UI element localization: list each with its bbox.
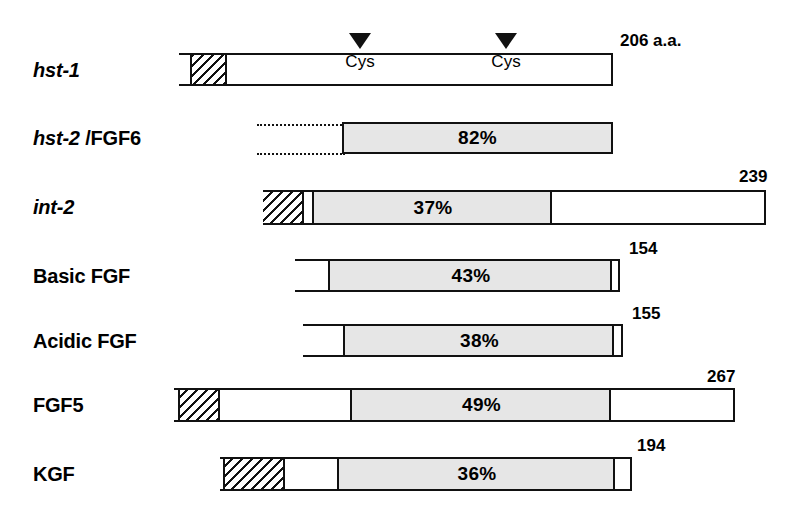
homology-percent-fgf5: 49% bbox=[352, 390, 611, 420]
row-label-text: hst-2 bbox=[33, 127, 80, 149]
protein-bar-fgf5: 49% bbox=[174, 388, 735, 422]
protein-bar-basic-fgf: 43% bbox=[295, 259, 620, 292]
row-label-int-2: int-2 bbox=[33, 197, 74, 217]
row-label-text: FGF5 bbox=[33, 394, 83, 416]
size-label-kgf: 194 bbox=[637, 437, 665, 454]
protein-bar-acidic-fgf: 38% bbox=[303, 324, 623, 357]
dotted-extension-top bbox=[257, 124, 345, 126]
dotted-extension-bottom bbox=[257, 153, 345, 155]
segment-hatched bbox=[225, 459, 285, 489]
protein-bar-hst-2: 82% bbox=[342, 122, 613, 154]
triangle-down-icon bbox=[349, 33, 371, 49]
segment-hatched bbox=[192, 55, 227, 84]
homology-percent-int-2: 37% bbox=[314, 192, 552, 223]
segment-white-n-term bbox=[303, 326, 345, 355]
row-label-text: hst-1 bbox=[33, 59, 80, 81]
segment-white bbox=[304, 192, 314, 223]
size-label-acidic-fgf: 155 bbox=[632, 305, 660, 322]
row-label-kgf: KGF bbox=[33, 464, 75, 484]
segment-hatched bbox=[263, 192, 304, 223]
row-label-hst-2: hst-2 /FGF6 bbox=[33, 128, 141, 148]
row-label-text: int-2 bbox=[33, 196, 74, 218]
size-label-hst-1: 206 a.a. bbox=[620, 32, 681, 49]
homology-percent-hst-2: 82% bbox=[344, 124, 611, 152]
protein-bar-int-2: 37% bbox=[263, 190, 766, 225]
row-label-text: Acidic FGF bbox=[33, 330, 137, 352]
row-label-fgf5: FGF5 bbox=[33, 395, 83, 415]
row-label-acidic-fgf: Acidic FGF bbox=[33, 331, 137, 351]
segment-white-n-term bbox=[295, 261, 330, 290]
segment-hatched bbox=[180, 390, 220, 420]
protein-bar-hst-1 bbox=[179, 53, 613, 86]
row-label-basic-fgf: Basic FGF bbox=[33, 266, 130, 286]
size-label-fgf5: 267 bbox=[707, 368, 735, 385]
triangle-down-icon bbox=[495, 33, 517, 49]
size-label-basic-fgf: 154 bbox=[629, 240, 657, 257]
segment-signal-white bbox=[179, 55, 192, 84]
homology-percent-kgf: 36% bbox=[339, 459, 615, 489]
cys-label: Cys bbox=[491, 53, 520, 70]
row-label-suffix: /FGF6 bbox=[85, 127, 141, 149]
row-label-hst-1: hst-1 bbox=[33, 60, 80, 80]
size-label-int-2: 239 bbox=[739, 168, 767, 185]
segment-white bbox=[285, 459, 339, 489]
homology-percent-basic-fgf: 43% bbox=[330, 261, 612, 290]
row-label-text: Basic FGF bbox=[33, 265, 130, 287]
fgf-family-diagram: hst-1 206 a.a. Cys Cys hst-2 /FGF6 82% i… bbox=[0, 0, 793, 524]
homology-percent-acidic-fgf: 38% bbox=[345, 326, 614, 355]
segment-white bbox=[220, 390, 352, 420]
protein-bar-kgf: 36% bbox=[220, 457, 632, 491]
row-label-text: KGF bbox=[33, 463, 75, 485]
cys-label: Cys bbox=[345, 53, 374, 70]
